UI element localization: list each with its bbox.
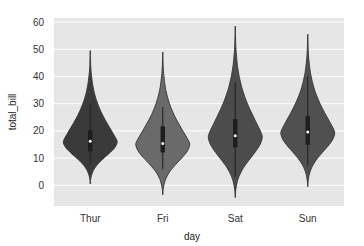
y-tick-label: 30: [33, 98, 45, 109]
x-tick-label: Sat: [228, 213, 243, 224]
violin-chart: 0102030405060 ThurFriSatSun day total_bi…: [0, 0, 364, 246]
x-axis-ticks: ThurFriSatSun: [80, 213, 317, 224]
y-tick-label: 10: [33, 153, 45, 164]
x-tick-label: Thur: [80, 213, 101, 224]
iqr-box: [161, 126, 165, 152]
x-tick-label: Fri: [157, 213, 169, 224]
y-tick-label: 40: [33, 71, 45, 82]
y-tick-label: 20: [33, 125, 45, 136]
iqr-box: [306, 116, 310, 145]
y-axis-ticks: 0102030405060: [33, 17, 45, 191]
x-axis-label: day: [184, 231, 200, 242]
y-axis-label: total_bill: [7, 94, 18, 131]
iqr-box: [233, 119, 237, 148]
median-marker: [89, 140, 92, 143]
median-marker: [306, 130, 309, 133]
median-marker: [234, 134, 237, 137]
median-marker: [161, 142, 164, 145]
y-tick-label: 60: [33, 17, 45, 28]
x-tick-label: Sun: [299, 213, 317, 224]
y-tick-label: 0: [38, 180, 44, 191]
y-tick-label: 50: [33, 44, 45, 55]
